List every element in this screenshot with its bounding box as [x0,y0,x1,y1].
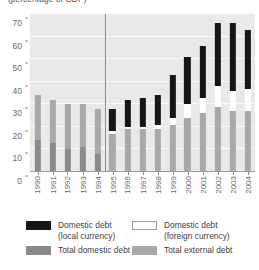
x-axis-tick-label: 1991 [49,176,58,194]
bar-column [105,14,120,172]
bar-segment [109,134,115,172]
bar-segment [139,129,145,172]
x-axis-tick-label: 2002 [214,176,223,194]
bar-column [30,14,45,172]
x-axis-tick-mark [83,172,84,175]
x-axis-tick-label: 1994 [94,176,103,194]
x-axis-tick-mark [248,172,249,175]
x-axis-tick-label: 2000 [184,176,193,194]
bar-segment [139,127,145,129]
x-axis-tick-label: 1995 [109,176,118,194]
x-axis-tick-mark [143,172,144,175]
bar-segment [199,46,205,98]
bar-segment [94,109,100,154]
legend-label-domestic-local: Domestic debt(local currency) [58,220,115,241]
bar-segment [154,125,160,130]
legend-label-line2: (foreign currency) [164,231,230,241]
x-axis-tick-mark [218,172,219,175]
bar-column [135,14,150,172]
legend-label-domestic-foreign: Domestic debt(foreign currency) [164,220,230,241]
x-axis-tick-label: 2003 [229,176,238,194]
x-axis-tick-mark [173,172,174,175]
legend-label-line2: (local currency) [58,231,115,241]
legend-item-domestic-local: Domestic debt(local currency) [26,220,115,241]
chart-figure: (percentage of GDP) 010203040506070 1990… [0,0,259,270]
bar-segment [109,109,115,132]
x-axis-tick-label: 1993 [79,176,88,194]
x-axis-tick-label: 2001 [199,176,208,194]
x-axis-tick-mark [38,172,39,175]
bar-segment [34,140,40,172]
bar [79,14,85,172]
y-axis-tick-mark [25,18,28,19]
bar-segment [49,143,55,172]
x-axis-tick-label: 1990 [33,176,42,194]
x-axis-tick-mark [67,172,68,175]
bar-segment [199,113,205,172]
chart-title: (percentage of GDP) [8,0,86,4]
bar [199,14,205,172]
x-axis-tick-mark [98,172,99,175]
bar-segment [229,91,235,111]
bar [184,14,190,172]
bar-segment [34,95,40,140]
bar-column [75,14,90,172]
bar-column [210,14,225,172]
bar-segment [124,129,130,172]
bar [169,14,175,172]
bar [109,14,115,172]
bar-segment [154,129,160,172]
x-axis: 1990199119921993199419951996199719981999… [30,172,255,186]
y-axis-tick-mark [25,63,28,64]
x-axis-tick-mark [113,172,114,175]
bar [34,14,40,172]
black-swatch-icon [26,221,51,230]
bar [49,14,55,172]
x-axis-tick-label: 1997 [139,176,148,194]
bar-column [60,14,75,172]
x-axis-tick-label: 1996 [123,176,132,194]
bar-segment [49,100,55,143]
x-axis-tick-label: 2004 [244,176,253,194]
bar-column [225,14,240,172]
bar-segment [79,147,85,172]
bar [214,14,220,172]
bar-segment [214,23,220,86]
plot-area [30,14,255,172]
bar-segment [244,111,250,172]
bar-column [150,14,165,172]
x-axis-tick-mark [128,172,129,175]
chart-legend: Domestic debt(local currency) Domestic d… [0,218,259,270]
bar-segment [124,127,130,129]
x-axis-tick-label: 1999 [169,176,178,194]
period-divider-line [105,14,106,172]
plot-wrapper: 010203040506070 199019911992199319941995… [0,10,259,186]
x-axis-tick-mark [203,172,204,175]
bar-column [90,14,105,172]
bar-segment [229,111,235,172]
bar [244,14,250,172]
bar-segment [64,104,70,149]
x-axis-tick-mark [158,172,159,175]
bar-column [165,14,180,172]
dark-gray-swatch-icon [26,246,51,255]
bar-segment [124,100,130,127]
bar [154,14,160,172]
bar [64,14,70,172]
bar-segment [229,23,235,91]
x-axis-tick-label: 1998 [154,176,163,194]
white-swatch-icon [132,221,157,230]
bar-segment [94,154,100,172]
bar [124,14,130,172]
bar-column [240,14,255,172]
bar-segment [64,149,70,172]
bar [229,14,235,172]
legend-item-domestic-foreign: Domestic debt(foreign currency) [132,220,230,241]
y-axis-tick-mark [25,85,28,86]
x-axis-tick-label: 1992 [63,176,72,194]
bar-segment [214,107,220,172]
bar-segment [184,104,190,118]
y-axis-tick-mark [25,130,28,131]
legend-label-line1: Domestic debt [164,220,218,230]
legend-label-line1: Domestic debt [58,220,112,230]
